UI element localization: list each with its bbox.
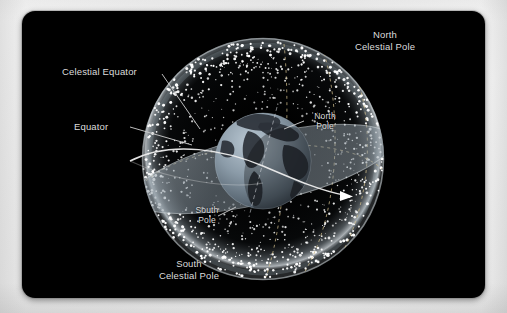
celestial-sphere-illustration: [22, 11, 485, 298]
label-north-celestial-pole: North Celestial Pole: [326, 29, 444, 52]
diagram-panel: North Celestial Pole Celestial Equator E…: [22, 11, 485, 298]
label-equator: Equator: [74, 121, 108, 133]
label-south-pole: South Pole: [186, 205, 228, 225]
label-north-pole: North Pole: [304, 111, 346, 131]
label-south-celestial-pole: South Celestial Pole: [130, 258, 248, 281]
label-celestial-equator: Celestial Equator: [62, 66, 137, 78]
figure-frame: North Celestial Pole Celestial Equator E…: [0, 0, 507, 313]
